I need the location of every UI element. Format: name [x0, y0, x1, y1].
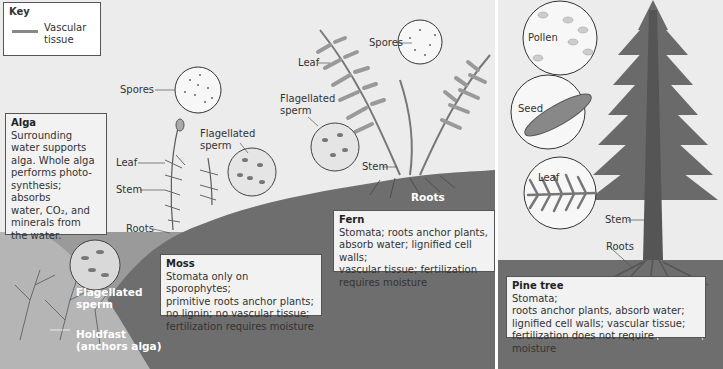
moss-sperm-circle — [228, 148, 276, 196]
moss-title: Moss — [166, 258, 316, 271]
moss-stem-label: Stem — [116, 184, 142, 196]
fern-spores-circle — [398, 20, 442, 64]
key-legend: Key Vascular tissue — [3, 2, 101, 56]
key-item-label: Vascular tissue — [44, 22, 86, 46]
left-panel-alga-moss-fern: Key Vascular tissue Alga Surrounding wat… — [0, 0, 495, 369]
fern-roots-label: Roots — [411, 191, 445, 203]
fern-spores-label: Spores — [369, 37, 403, 49]
moss-description: Stomata only on sporophytes; primitive r… — [166, 271, 316, 334]
moss-roots-label: Roots — [126, 223, 154, 235]
alga-description: Surrounding water supports alga. Whole a… — [11, 130, 101, 243]
pine-title: Pine tree — [512, 280, 700, 293]
fern-leaf-label: Leaf — [298, 57, 319, 69]
fern-title: Fern — [339, 214, 489, 227]
moss-capsule — [176, 119, 184, 131]
fern-sperm-circle — [311, 123, 359, 171]
alga-title: Alga — [11, 117, 101, 130]
vascular-tissue-swatch — [12, 30, 38, 33]
fern-flagellated-sperm-label: Flagellated sperm — [280, 93, 335, 116]
fern-stem-label: Stem — [362, 161, 388, 173]
pine-roots-label: Roots — [606, 241, 634, 253]
pine-description: Stomata; roots anchor plants, absorb wat… — [512, 293, 700, 356]
alga-info-box: Alga Surrounding water supports alga. Wh… — [5, 113, 107, 235]
key-title: Key — [9, 6, 95, 17]
moss-leaves — [165, 155, 218, 222]
pine-stem-label: Stem — [605, 214, 631, 226]
moss-spores-label: Spores — [120, 84, 154, 96]
seed-label: Seed — [518, 103, 543, 115]
moss-info-box: Moss Stomata only on sporophytes; primit… — [160, 254, 322, 316]
alga-holdfast-label: Holdfast (anchors alga) — [76, 328, 161, 352]
pine-leaf-label: Leaf — [538, 172, 559, 184]
alga-sperm-circle — [70, 240, 120, 290]
right-panel-pine-tree: Pollen Seed Leaf Stem Roots Pine tree St… — [498, 0, 723, 369]
pollen-label: Pollen — [528, 32, 558, 44]
moss-flagellated-sperm-label: Flagellated sperm — [200, 128, 255, 151]
fern-info-box: Fern Stomata; roots anchor plants, absor… — [333, 210, 495, 272]
alga-flagellated-sperm-label: Flagellated sperm — [76, 286, 142, 310]
moss-leaf-label: Leaf — [116, 157, 137, 169]
fern-description: Stomata; roots anchor plants, absorb wat… — [339, 227, 489, 290]
moss-spores-circle — [175, 67, 221, 113]
pine-info-box: Pine tree Stomata; roots anchor plants, … — [506, 276, 706, 338]
